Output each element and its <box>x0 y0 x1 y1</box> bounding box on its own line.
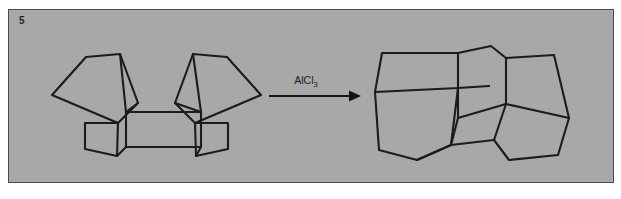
reagent-formula-main: AlCl <box>294 74 313 86</box>
product-central-rung <box>458 86 489 88</box>
product-central-lower-vertex <box>451 140 494 145</box>
scheme-panel: 5 <box>8 9 614 183</box>
reagent-formula-subscript: 3 <box>314 80 318 89</box>
reactant-left-foot-bond <box>117 147 126 156</box>
product-upper-left-ring <box>375 53 458 92</box>
product-central-upper-ring <box>458 46 506 118</box>
product-lower-left-ring <box>375 88 458 160</box>
arrow-head <box>349 91 361 102</box>
reactant-right-bridge-upper <box>193 54 201 112</box>
reactant-molecule <box>52 54 261 156</box>
reaction-arrow <box>269 91 361 102</box>
reactant-central-left-diagonal <box>126 103 138 112</box>
reaction-scheme-drawing: AlCl3 <box>9 10 615 184</box>
figure-root: 5 <box>0 0 621 199</box>
product-molecule <box>375 46 569 160</box>
product-upper-right-ring <box>506 55 569 118</box>
reactant-left-lower-ring <box>85 123 118 156</box>
product-bottom-closing-bond <box>417 145 451 160</box>
reagent-label: AlCl3 <box>294 74 317 89</box>
product-lower-right-ring <box>494 118 569 160</box>
product-central-right-bridge <box>494 104 506 140</box>
